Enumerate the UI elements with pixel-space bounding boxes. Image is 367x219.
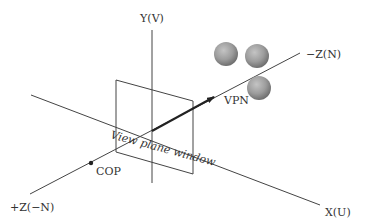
viewing-coordinate-diagram: Y(V) −Z(N) +Z(−N) X(U) VPN COP View plan… (0, 0, 367, 219)
vpn-label: VPN (223, 94, 249, 107)
y-axis-label: Y(V) (139, 12, 164, 25)
neg-z-axis-label: −Z(N) (306, 48, 341, 61)
vpn-arrow (152, 97, 214, 131)
cop-label: COP (96, 165, 121, 178)
pos-z-axis-label: +Z(−N) (10, 201, 54, 214)
x-axis-label: X(U) (325, 206, 351, 219)
sphere-icon (245, 44, 269, 68)
view-plane-window-label: View plane window (109, 128, 217, 169)
sphere-icon (214, 42, 238, 66)
cop-point (89, 161, 93, 165)
sphere-objects (214, 42, 271, 100)
sphere-icon (247, 76, 271, 100)
